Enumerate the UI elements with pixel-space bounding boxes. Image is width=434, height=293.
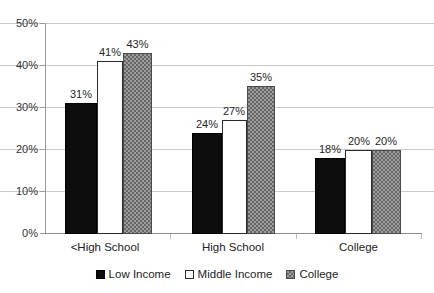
bar-value-label-college-college: 20% bbox=[370, 136, 402, 147]
legend-label-low-income: Low Income bbox=[109, 268, 171, 281]
bar-low-income-high-school-less[interactable] bbox=[65, 103, 97, 234]
y-tick-label-30: 30% bbox=[0, 102, 38, 113]
bar-college-college[interactable] bbox=[372, 150, 401, 234]
bar-middle-income-college[interactable] bbox=[345, 150, 372, 234]
bar-value-label-middle-high-school: 27% bbox=[218, 106, 250, 117]
x-category-label-0: <High School bbox=[43, 241, 167, 254]
legend-item-low-income[interactable]: Low Income bbox=[96, 268, 171, 281]
bar-value-label-low-college: 18% bbox=[314, 144, 346, 155]
bar-college-high-school-less[interactable] bbox=[123, 53, 152, 234]
x-category-tick-2 bbox=[421, 234, 422, 239]
legend-label-college: College bbox=[299, 268, 338, 281]
y-tick-label-20: 20% bbox=[0, 144, 38, 155]
legend-swatch-icon-low-income bbox=[96, 270, 105, 279]
bar-college-high-school[interactable] bbox=[247, 86, 275, 234]
legend-label-middle-income: Middle Income bbox=[198, 268, 273, 281]
bar-value-label-low-high-school-less: 31% bbox=[65, 89, 97, 100]
x-category-label-1: High School bbox=[170, 241, 296, 254]
bar-value-label-low-high-school: 24% bbox=[191, 119, 223, 130]
legend-item-college[interactable]: College bbox=[286, 268, 338, 281]
bar-low-income-high-school[interactable] bbox=[192, 133, 222, 234]
y-tick-label-10: 10% bbox=[0, 186, 38, 197]
y-tick-label-50: 50% bbox=[0, 18, 38, 29]
x-category-tick-0 bbox=[170, 234, 171, 239]
y-tick-label-0: 0% bbox=[0, 228, 38, 239]
bar-value-label-college-high-school-less: 43% bbox=[121, 39, 154, 50]
bar-chart: 50% 40% 30% 20% 10% 0% 31% 41% 43% 24% bbox=[0, 0, 434, 293]
bar-low-income-college[interactable] bbox=[315, 158, 345, 234]
legend-item-middle-income[interactable]: Middle Income bbox=[185, 268, 273, 281]
y-tick-label-40: 40% bbox=[0, 60, 38, 71]
legend-swatch-icon-college bbox=[286, 270, 295, 279]
bar-middle-income-high-school-less[interactable] bbox=[97, 61, 123, 234]
chart-legend: Low Income Middle Income College bbox=[0, 268, 434, 281]
x-category-tick-1 bbox=[296, 234, 297, 239]
legend-swatch-icon-middle-income bbox=[185, 270, 194, 279]
bar-middle-income-high-school[interactable] bbox=[222, 120, 247, 234]
x-category-label-2: College bbox=[296, 241, 421, 254]
bar-value-label-college-high-school: 35% bbox=[245, 72, 277, 83]
plot-area: 31% 41% 43% 24% 27% 35% 18% 20% 20% bbox=[45, 23, 422, 234]
